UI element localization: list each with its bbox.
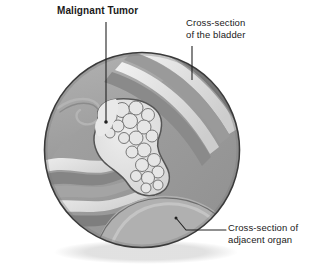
illustration-body bbox=[40, 30, 252, 256]
label-malignant-tumor: Malignant Tumor bbox=[57, 5, 138, 17]
label-cross-section-adjacent-organ: Cross-section of adjacent organ bbox=[228, 222, 298, 245]
label-cross-section-bladder: Cross-section of the bladder bbox=[186, 17, 246, 40]
